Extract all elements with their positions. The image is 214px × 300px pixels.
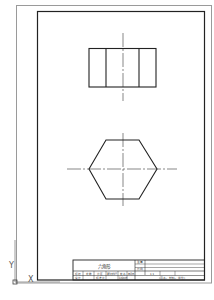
rev-date: 年月日: [128, 272, 134, 276]
sheet-border: [17, 6, 212, 284]
label-weight: 重量: [137, 260, 143, 264]
ucs-icon: Y X: [8, 240, 60, 284]
cad-drawing-canvas[interactable]: 六角形 重量 比例 标记 处数 分区 更改文件号 签名 年月日 1:1 设计 标…: [0, 0, 214, 300]
ucs-y-label: Y: [8, 261, 14, 270]
title-block: 六角形 重量 比例 标记 处数 分区 更改文件号 签名 年月日 1:1 设计 标…: [73, 260, 205, 280]
stage-label: 阶段标记: [119, 276, 128, 280]
label-scale: 比例: [137, 267, 143, 271]
standard-label: 标准化: [96, 276, 105, 280]
drawing-note: (图名、材料、单位): [159, 276, 185, 280]
rev-count: 处数: [86, 272, 92, 276]
hexagon-view: [67, 133, 177, 206]
ucs-x-label: X: [28, 275, 34, 284]
drawing-frame: [38, 12, 205, 281]
rev-zone: 分区: [97, 272, 103, 276]
rev-doc: 更改文件号: [107, 272, 118, 276]
top-view: [89, 33, 156, 101]
part-name: 六角形: [98, 263, 111, 270]
design-label: 设计: [75, 276, 81, 280]
rev-mark: 标记: [75, 272, 81, 276]
rev-sign: 签名: [120, 272, 126, 276]
scale-value: 1:1: [150, 273, 155, 276]
top-view-outline: [89, 49, 156, 88]
